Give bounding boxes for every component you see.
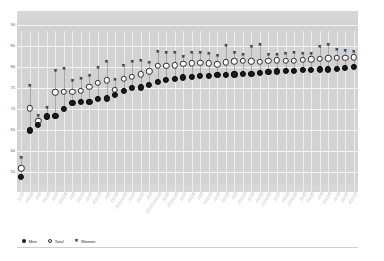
data-point-women[interactable]: ✖	[113, 78, 117, 82]
data-point-women[interactable]: ✖	[198, 50, 202, 54]
data-point-men[interactable]	[214, 72, 220, 78]
data-point-women[interactable]: ✖	[181, 55, 185, 59]
data-point-women[interactable]: ✖	[62, 67, 66, 71]
data-point-total[interactable]	[137, 71, 143, 77]
data-point-total[interactable]	[333, 55, 339, 61]
data-point-men[interactable]	[155, 78, 161, 84]
data-point-men[interactable]	[163, 77, 169, 83]
data-point-men[interactable]	[317, 66, 323, 72]
data-point-total[interactable]	[52, 89, 58, 95]
data-point-women[interactable]: ✖	[87, 74, 91, 78]
data-point-men[interactable]	[86, 99, 92, 105]
data-point-women[interactable]: ✖	[156, 50, 160, 54]
data-point-men[interactable]	[35, 122, 41, 128]
data-point-total[interactable]	[282, 57, 288, 63]
data-point-women[interactable]: ✖	[96, 66, 100, 70]
data-point-men[interactable]	[95, 96, 101, 102]
data-point-women[interactable]: ✖	[53, 69, 57, 73]
data-point-total[interactable]	[299, 56, 305, 62]
data-point-men[interactable]	[146, 82, 152, 88]
data-point-men[interactable]	[112, 91, 118, 97]
data-point-men[interactable]	[248, 70, 254, 76]
data-point-total[interactable]	[146, 68, 152, 74]
legend-item-women[interactable]: ✖ Women	[75, 239, 96, 244]
data-point-men[interactable]	[206, 73, 212, 79]
data-point-total[interactable]	[231, 58, 237, 64]
data-point-total[interactable]	[342, 54, 348, 60]
data-point-men[interactable]	[189, 73, 195, 79]
data-point-women[interactable]: ✖	[249, 45, 253, 49]
data-point-total[interactable]	[351, 54, 357, 60]
data-point-women[interactable]: ✖	[335, 48, 339, 52]
data-point-men[interactable]	[223, 72, 229, 78]
data-point-men[interactable]	[325, 66, 331, 72]
data-point-total[interactable]	[223, 59, 229, 65]
data-point-women[interactable]: ✖	[266, 53, 270, 57]
data-point-total[interactable]	[78, 88, 84, 94]
data-point-total[interactable]	[257, 59, 263, 65]
data-point-men[interactable]	[299, 67, 305, 73]
data-point-men[interactable]	[44, 113, 50, 119]
data-point-total[interactable]	[103, 77, 109, 83]
data-point-men[interactable]	[129, 85, 135, 91]
data-point-total[interactable]	[248, 58, 254, 64]
data-point-men[interactable]	[197, 73, 203, 79]
data-point-women[interactable]: ✖	[343, 49, 347, 53]
data-point-women[interactable]: ✖	[130, 60, 134, 64]
data-point-men[interactable]	[18, 173, 24, 179]
data-point-total[interactable]	[189, 60, 195, 66]
data-point-total[interactable]	[197, 60, 203, 66]
data-point-total[interactable]	[265, 57, 271, 63]
data-point-women[interactable]: ✖	[70, 79, 74, 83]
data-point-men[interactable]	[274, 68, 280, 74]
data-point-men[interactable]	[61, 106, 67, 112]
data-point-women[interactable]: ✖	[300, 52, 304, 56]
data-point-men[interactable]	[52, 113, 58, 119]
data-point-total[interactable]	[180, 61, 186, 67]
data-point-total[interactable]	[18, 165, 24, 171]
data-point-total[interactable]	[95, 80, 101, 86]
data-point-men[interactable]	[342, 65, 348, 71]
data-point-men[interactable]	[103, 95, 109, 101]
data-point-total[interactable]	[274, 57, 280, 63]
data-point-men[interactable]	[231, 71, 237, 77]
data-point-total[interactable]	[206, 60, 212, 66]
data-point-men[interactable]	[69, 100, 75, 106]
data-point-men[interactable]	[120, 88, 126, 94]
data-point-women[interactable]: ✖	[224, 44, 228, 48]
data-point-men[interactable]	[180, 74, 186, 80]
data-point-women[interactable]: ✖	[190, 51, 194, 55]
data-point-men[interactable]	[351, 64, 357, 70]
data-point-women[interactable]: ✖	[232, 51, 236, 55]
data-point-women[interactable]: ✖	[19, 156, 23, 160]
data-point-women[interactable]: ✖	[164, 50, 168, 54]
data-point-women[interactable]: ✖	[45, 106, 49, 110]
legend-item-men[interactable]: Men	[22, 239, 37, 244]
legend-item-total[interactable]: Total	[48, 239, 64, 244]
data-point-women[interactable]: ✖	[326, 43, 330, 47]
data-point-men[interactable]	[265, 69, 271, 75]
data-point-women[interactable]: ✖	[207, 52, 211, 56]
data-point-women[interactable]: ✖	[173, 51, 177, 55]
data-point-men[interactable]	[27, 127, 33, 133]
data-point-men[interactable]	[282, 68, 288, 74]
data-point-men[interactable]	[257, 70, 263, 76]
data-point-women[interactable]: ✖	[79, 77, 83, 81]
data-point-total[interactable]	[61, 89, 67, 95]
data-point-women[interactable]: ✖	[258, 43, 262, 47]
data-point-women[interactable]: ✖	[147, 61, 151, 65]
data-point-men[interactable]	[240, 71, 246, 77]
data-point-women[interactable]: ✖	[28, 84, 32, 88]
data-point-total[interactable]	[325, 55, 331, 61]
data-point-total[interactable]	[129, 73, 135, 79]
data-point-total[interactable]	[308, 56, 314, 62]
data-point-women[interactable]: ✖	[318, 45, 322, 49]
data-point-total[interactable]	[291, 58, 297, 64]
data-point-women[interactable]: ✖	[139, 59, 143, 63]
data-point-men[interactable]	[334, 66, 340, 72]
data-point-women[interactable]: ✖	[121, 63, 125, 67]
data-point-men[interactable]	[78, 99, 84, 105]
data-point-total[interactable]	[240, 58, 246, 64]
data-point-men[interactable]	[172, 76, 178, 82]
data-point-total[interactable]	[120, 76, 126, 82]
